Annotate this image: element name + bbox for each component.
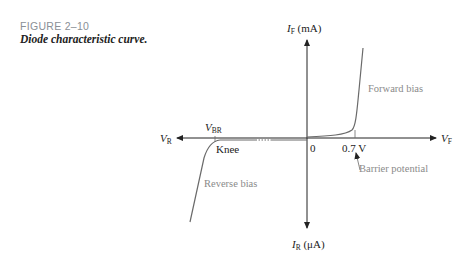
threshold-label: 0.7 V	[342, 142, 366, 154]
y-bottom-label: IR (μA)	[291, 238, 325, 252]
barrier-potential-label: Barrier potential	[359, 163, 428, 174]
knee-label: Knee	[216, 143, 239, 155]
x-left-label: VR	[160, 132, 172, 146]
x-right-label: VF	[441, 132, 452, 146]
origin-label: 0	[310, 142, 316, 154]
forward-bias-curve	[307, 48, 363, 137]
reverse-bias-label: Reverse bias	[204, 178, 257, 189]
diode-characteristic-diagram: IF (mA) IR (μA) VR VF 0 VBR Knee 0.7 V F…	[0, 0, 457, 256]
vbr-label: VBR	[205, 121, 222, 135]
y-top-label: IF (mA)	[286, 22, 322, 36]
forward-bias-label: Forward bias	[368, 83, 423, 94]
